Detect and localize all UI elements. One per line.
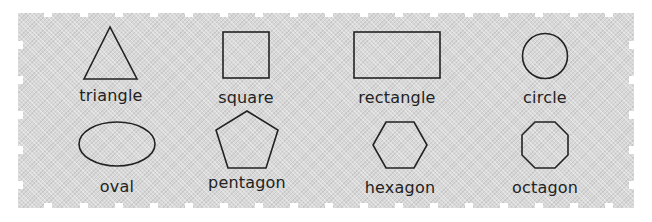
- edge-notch: [18, 41, 23, 49]
- edge-notch: [465, 203, 473, 208]
- pentagon-icon: [215, 110, 279, 170]
- edge-notch: [150, 13, 158, 17]
- shape-square: square: [169, 31, 323, 107]
- shape-label: square: [169, 89, 323, 107]
- triangle-icon: [81, 26, 141, 82]
- square-icon: [222, 31, 270, 79]
- edge-notch: [430, 203, 438, 208]
- shape-pentagon: pentagon: [170, 110, 324, 192]
- shape-octagon: octagon: [468, 121, 622, 197]
- shape-triangle: triangle: [34, 26, 188, 105]
- edge-notch: [500, 13, 508, 17]
- oval-icon: [77, 120, 157, 168]
- shape-circle: circle: [468, 32, 622, 107]
- edge-notch: [44, 13, 52, 17]
- octagon-icon: [521, 121, 569, 169]
- shape-label: hexagon: [323, 179, 477, 197]
- edge-notch: [325, 13, 333, 17]
- edge-notch: [500, 203, 508, 208]
- shape-label: rectangle: [320, 89, 474, 107]
- edge-notch: [395, 13, 403, 17]
- shape-rectangle: rectangle: [320, 31, 474, 107]
- shape-label: triangle: [34, 87, 188, 105]
- edge-notch: [185, 203, 193, 208]
- edge-notch: [535, 203, 543, 208]
- edge-notch: [44, 203, 52, 208]
- edge-notch: [629, 146, 634, 154]
- edge-notch: [150, 203, 158, 208]
- edge-notch: [290, 13, 298, 17]
- edge-notch: [220, 13, 228, 17]
- edge-notch: [629, 76, 634, 84]
- edge-notch: [18, 181, 23, 189]
- edge-notch: [430, 13, 438, 17]
- edge-notch: [535, 13, 543, 17]
- edge-notch: [18, 146, 23, 154]
- edge-notch: [18, 111, 23, 119]
- edge-notch: [18, 76, 23, 84]
- edge-notch: [290, 203, 298, 208]
- shape-label: pentagon: [170, 174, 324, 192]
- edge-notch: [465, 13, 473, 17]
- edge-notch: [360, 203, 368, 208]
- edge-notch: [255, 13, 263, 17]
- rectangle-icon: [353, 31, 441, 79]
- edge-notch: [605, 13, 613, 17]
- shape-hexagon: hexagon: [323, 121, 477, 197]
- edge-notch: [395, 203, 403, 208]
- edge-notch: [629, 41, 634, 49]
- edge-notch: [220, 203, 228, 208]
- edge-notch: [360, 13, 368, 17]
- edge-notch: [325, 203, 333, 208]
- edge-notch: [629, 111, 634, 119]
- edge-notch: [629, 181, 634, 189]
- hexagon-icon: [372, 121, 428, 169]
- shape-label: octagon: [468, 179, 622, 197]
- edge-notch: [605, 203, 613, 208]
- edge-notch: [80, 203, 88, 208]
- edge-notch: [570, 203, 578, 208]
- edge-notch: [570, 13, 578, 17]
- edge-notch: [115, 203, 123, 208]
- edge-notch: [185, 13, 193, 17]
- edge-notch: [80, 13, 88, 17]
- circle-icon: [521, 32, 569, 80]
- shape-label: circle: [468, 89, 622, 107]
- edge-notch: [115, 13, 123, 17]
- edge-notch: [255, 203, 263, 208]
